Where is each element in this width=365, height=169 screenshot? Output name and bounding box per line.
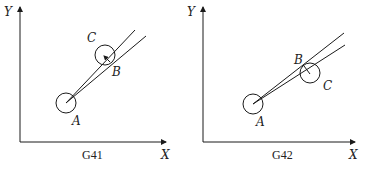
- point-label-b: B: [111, 65, 121, 79]
- point-label-c: C: [323, 79, 332, 93]
- point-label-a: A: [71, 114, 81, 128]
- y-axis-label: Y: [4, 5, 13, 19]
- x-axis-label: X: [348, 148, 358, 162]
- panel-g41: Y X C B A G41: [4, 5, 170, 162]
- caption-g42: G42: [272, 148, 293, 162]
- point-label-a: A: [255, 115, 265, 129]
- caption-g41: G41: [82, 148, 103, 162]
- point-label-b: B: [293, 53, 303, 67]
- contour-line: [66, 36, 146, 103]
- panel-g42: Y X B C A G42: [187, 5, 358, 162]
- cutter-circle-c: [300, 63, 320, 83]
- y-axis-label: Y: [187, 5, 196, 19]
- cutter-compensation-diagram: Y X C B A G41 Y X B C A G42: [0, 0, 365, 169]
- tool-path-line: [66, 30, 135, 103]
- x-axis-label: X: [160, 148, 170, 162]
- contour-line: [253, 33, 344, 104]
- offset-vector: [304, 66, 310, 74]
- point-label-c: C: [87, 31, 96, 45]
